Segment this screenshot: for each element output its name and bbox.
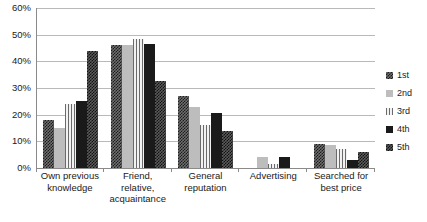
bar-group — [105, 8, 173, 168]
y-axis: 0%10%20%30%40%50%60% — [0, 0, 34, 175]
bar — [222, 131, 233, 168]
bar — [314, 144, 325, 168]
legend-label: 4th — [397, 125, 410, 134]
bar — [65, 104, 76, 168]
x-axis-label-line: reputation — [173, 182, 239, 194]
legend-label: 2nd — [397, 89, 412, 98]
y-axis-tick-label: 30% — [12, 83, 31, 93]
bar-group — [307, 8, 375, 168]
bar — [76, 101, 87, 168]
bar — [325, 145, 336, 168]
legend-swatch-icon — [386, 126, 393, 133]
x-axis-label-line: Friend, — [105, 170, 171, 182]
x-axis-category-label: Advertising — [239, 170, 307, 205]
legend-swatch-icon — [386, 72, 393, 79]
legend-item-2nd[interactable]: 2nd — [386, 84, 427, 102]
bar — [54, 128, 65, 168]
x-axis-labels: Own previousknowledgeFriend,relative,acq… — [36, 170, 375, 205]
bar — [133, 39, 144, 168]
legend-item-1st[interactable]: 1st — [386, 66, 427, 84]
y-axis-tick-label: 60% — [12, 3, 31, 13]
x-axis-label-line: relative, — [105, 182, 171, 194]
bar — [111, 45, 122, 168]
plot-area — [36, 8, 375, 168]
x-axis-category-label: Friend,relative,acquaintance — [104, 170, 172, 205]
y-axis-tick-label: 20% — [12, 110, 31, 120]
bar — [200, 125, 211, 168]
bar — [336, 149, 347, 168]
legend-item-5th[interactable]: 5th — [386, 138, 427, 156]
x-axis-label-line: best price — [308, 182, 374, 194]
bar — [43, 120, 54, 168]
legend-label: 1st — [397, 71, 409, 80]
legend-swatch-icon — [386, 90, 393, 97]
legend-swatch-icon — [386, 144, 393, 151]
y-axis-tick-label: 40% — [12, 57, 31, 67]
x-axis-label-line: acquaintance — [105, 193, 171, 205]
bar — [347, 160, 358, 168]
y-axis-tick-label: 10% — [12, 137, 31, 147]
y-axis-tick-label: 0% — [17, 163, 31, 173]
legend: 1st2nd3rd4th5th — [386, 66, 427, 156]
bars-layer — [37, 8, 375, 168]
bar-chart: 0%10%20%30%40%50%60% Own previousknowled… — [0, 0, 427, 222]
bar — [211, 113, 222, 168]
bar-group — [37, 8, 105, 168]
legend-item-3rd[interactable]: 3rd — [386, 102, 427, 120]
x-axis-label-line: knowledge — [37, 182, 103, 194]
y-axis-tick-label: 50% — [12, 30, 31, 40]
bar — [257, 157, 268, 168]
bar-group — [172, 8, 240, 168]
bar — [155, 81, 166, 168]
legend-item-4th[interactable]: 4th — [386, 120, 427, 138]
legend-label: 3rd — [397, 107, 410, 116]
x-axis-category-label: Own previousknowledge — [36, 170, 104, 205]
bar-group — [240, 8, 308, 168]
x-axis-category-label: Searched forbest price — [307, 170, 375, 205]
legend-label: 5th — [397, 143, 410, 152]
bar — [122, 45, 133, 168]
bar — [189, 107, 200, 168]
x-axis-label-line: General — [173, 170, 239, 182]
x-axis-label-line: Advertising — [240, 170, 306, 182]
bar — [358, 152, 369, 168]
x-axis-label-line: Own previous — [37, 170, 103, 182]
bar — [87, 51, 98, 168]
legend-swatch-icon — [386, 108, 393, 115]
x-axis-category-label: Generalreputation — [172, 170, 240, 205]
bar — [279, 157, 290, 168]
x-axis-label-line: Searched for — [308, 170, 374, 182]
bar — [178, 96, 189, 168]
bar — [144, 44, 155, 168]
